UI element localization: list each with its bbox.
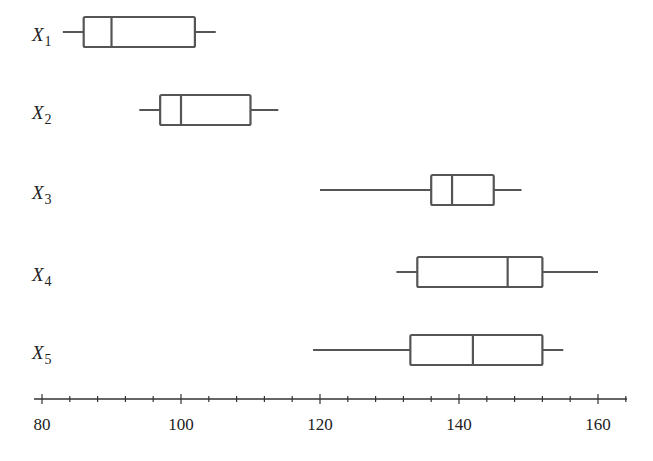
series-label: X1 [31,24,52,49]
tick-label: 140 [446,415,472,434]
boxplot-x2 [139,95,278,125]
boxplot-chart: X1X2X3X4X5 80100120140160 [0,0,653,461]
boxplot-x1 [63,17,216,47]
tick-label: 160 [585,415,611,434]
tick-label: 100 [168,415,194,434]
iqr-box [160,95,250,125]
x-axis: 80100120140160 [34,394,628,434]
series-labels: X1X2X3X4X5 [31,24,52,367]
series-label: X2 [31,102,52,127]
series-label: X5 [31,342,52,367]
boxplot-x3 [320,175,522,205]
tick-label: 80 [34,415,51,434]
series-label: X3 [31,182,52,207]
iqr-box [410,335,542,365]
iqr-box [84,17,195,47]
boxplot-x5 [313,335,563,365]
tick-label: 120 [307,415,333,434]
iqr-box [431,175,494,205]
iqr-box [417,257,542,287]
series-label: X4 [31,264,52,289]
box-group [63,17,598,365]
boxplot-x4 [396,257,598,287]
